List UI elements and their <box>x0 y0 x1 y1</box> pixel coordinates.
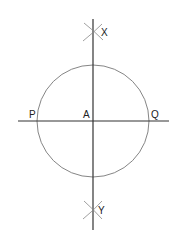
construction-diagram: X Y A P Q <box>0 0 182 240</box>
label-p: P <box>29 109 36 120</box>
label-q: Q <box>151 109 159 120</box>
label-x: X <box>101 27 108 38</box>
label-y: Y <box>98 205 105 216</box>
label-a: A <box>83 109 90 120</box>
